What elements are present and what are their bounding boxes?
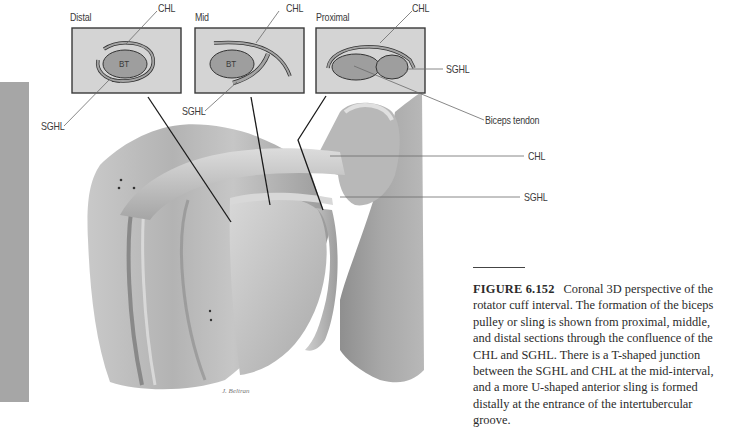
label-proximal: Proximal (316, 11, 349, 23)
label-proximal-sghl: SGHL (446, 63, 470, 75)
label-mid: Mid (195, 11, 209, 23)
label-proximal-chl: CHL (412, 2, 429, 14)
caption-rule (473, 267, 525, 268)
label-sghl: SGHL (524, 191, 548, 203)
figure-caption: FIGURE 6.152Coronal 3D perspective of th… (473, 281, 725, 429)
panel-mid (195, 11, 304, 111)
label-mid-sghl: SGHL (182, 105, 206, 117)
figure-number: FIGURE 6.152 (473, 282, 555, 296)
label-distal-bt: BT (119, 58, 129, 69)
artist-signature: J. Beltran (222, 387, 250, 395)
label-distal-sghl: SGHL (41, 120, 65, 132)
caption-text: Coronal 3D perspective of the rotator cu… (473, 282, 714, 427)
label-mid-bt: BT (226, 58, 236, 69)
label-biceps-tendon: Biceps tendon (485, 114, 539, 126)
label-chl: CHL (528, 150, 545, 162)
label-distal-chl: CHL (158, 2, 175, 14)
label-mid-chl: CHL (286, 2, 303, 14)
label-distal: Distal (70, 11, 91, 23)
